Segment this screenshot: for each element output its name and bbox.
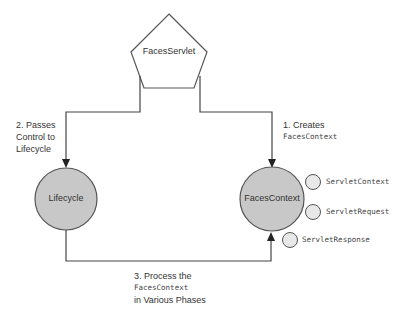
servlet-response-label: ServletResponse: [302, 234, 370, 246]
edge-lifecycle-to-context: [66, 230, 271, 261]
servlet-context-label: ServletContext: [326, 176, 389, 188]
step3-label: 3. Process the FacesContext in Various P…: [134, 270, 206, 306]
lifecycle-label: Lifecycle: [35, 193, 97, 203]
step2-line2: Control to: [16, 131, 56, 143]
faces-servlet-label: FacesServlet: [131, 46, 207, 56]
faces-context-label: FacesContext: [240, 193, 304, 203]
step1-line1: 1. Creates: [283, 119, 337, 131]
servlet-request-node: [306, 205, 321, 220]
arrow-head-icon: [267, 232, 275, 241]
servlet-request-label: ServletRequest: [326, 206, 389, 218]
servlet-context-node: [306, 175, 321, 190]
step3-line3: in Various Phases: [134, 294, 206, 306]
step3-line1: 3. Process the: [134, 270, 206, 282]
servlet-response-node: [283, 233, 298, 248]
step3-line2: FacesContext: [134, 282, 206, 294]
step1-label: 1. Creates FacesContext: [283, 119, 337, 143]
step1-line2: FacesContext: [283, 131, 337, 143]
step2-label: 2. Passes Control to Lifecycle: [16, 119, 56, 155]
edge-servlet-to-context: [200, 76, 272, 166]
step2-line3: Lifecycle: [16, 143, 56, 155]
arrow-head-icon: [62, 159, 70, 168]
edge-servlet-to-lifecycle: [66, 76, 140, 166]
step2-line1: 2. Passes: [16, 119, 56, 131]
